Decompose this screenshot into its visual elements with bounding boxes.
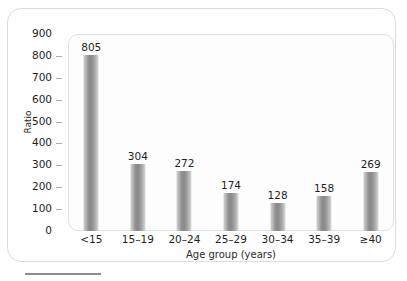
y-tick-mark [56,56,62,57]
bar [177,171,192,231]
bar-value-label: 128 [268,189,288,201]
caption-rule [25,273,101,275]
y-tick-label: 300 [32,158,52,171]
y-tick-label: 400 [32,136,52,149]
bar [130,164,145,231]
bar-group: 805 [68,34,115,231]
x-tick-label: 35–39 [308,233,340,245]
y-tick-mark [56,187,62,188]
bar [270,203,285,231]
bar-group: 128 [254,34,301,231]
bar-group: 304 [115,34,162,231]
y-tick-mark [56,100,62,101]
bar-value-label: 269 [361,158,381,170]
y-tick-mark [56,209,62,210]
bar-value-label: 174 [221,179,241,191]
y-tick-label: 100 [32,202,52,215]
bar-value-label: 304 [128,150,148,162]
y-tick-label: 600 [32,93,52,106]
y-tick-label: 200 [32,180,52,193]
bar-group: 158 [301,34,348,231]
x-tick-label: 25–29 [215,233,247,245]
bar-group: 272 [161,34,208,231]
y-tick-label: 800 [32,49,52,62]
y-tick-mark [56,122,62,123]
x-tick-label: <15 [80,233,102,245]
y-tick-mark [56,165,62,166]
bar-value-label: 272 [174,157,194,169]
y-tick-label: 900 [32,27,52,40]
bar-value-label: 805 [81,41,101,53]
bar [223,193,238,231]
figure-frame: Ratio 0100200300400500600700800900 80530… [7,8,396,262]
x-tick-label: 20–24 [168,233,200,245]
bar [317,196,332,231]
x-axis-title: Age group (years) [68,249,394,260]
x-tick-label: 30–34 [262,233,294,245]
bar-value-label: 158 [314,182,334,194]
x-tick-label: 15–19 [122,233,154,245]
y-tick-mark [56,78,62,79]
x-axis: <1515–1920–2425–2930–3435–39≥40 Age grou… [68,233,394,263]
y-tick-label: 0 [45,224,52,237]
bar [363,172,378,231]
bar-series: 805304272174128158269 [68,34,394,231]
bar-group: 174 [208,34,255,231]
x-tick-label: ≥40 [360,233,382,245]
bar-group: 269 [347,34,394,231]
bar [84,55,99,231]
y-tick-mark [56,143,62,144]
y-tick-label: 700 [32,71,52,84]
y-tick-label: 500 [32,115,52,128]
